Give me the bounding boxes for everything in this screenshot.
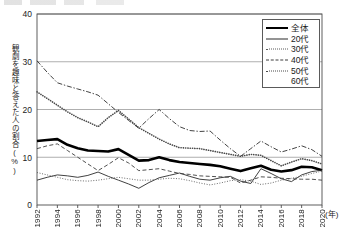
legend-item-overall[interactable]: 全体 bbox=[265, 23, 317, 34]
legend-swatch-50s bbox=[266, 66, 288, 76]
legend-item-30s[interactable]: 30代 bbox=[265, 44, 317, 55]
y-tick-0: 0 bbox=[14, 200, 32, 210]
chart-legend: 全体 20代 30代 40代 50代 60代 bbox=[262, 19, 320, 88]
x-tick-2008: 2008 bbox=[195, 209, 204, 228]
x-tick-2002: 2002 bbox=[134, 209, 143, 228]
legend-label-30s: 30代 bbox=[291, 44, 309, 54]
legend-swatch-60s bbox=[266, 76, 288, 86]
legend-label-40s: 40代 bbox=[291, 55, 309, 65]
x-tick-1998: 1998 bbox=[94, 209, 103, 228]
x-tick-2012: 2012 bbox=[236, 209, 245, 228]
x-tick-2014: 2014 bbox=[256, 209, 265, 228]
legend-swatch-20s bbox=[266, 34, 288, 44]
y-tick-30: 30 bbox=[14, 57, 32, 67]
x-tick-2000: 2000 bbox=[114, 209, 123, 228]
y-tick-10: 10 bbox=[14, 153, 32, 163]
legend-label-50s: 50代 bbox=[291, 66, 309, 76]
legend-label-overall: 全体 bbox=[291, 23, 309, 33]
legend-swatch-30s bbox=[266, 44, 288, 54]
x-tick-1992: 1992 bbox=[33, 209, 42, 228]
legend-label-60s: 60代 bbox=[291, 76, 309, 86]
x-tick-2010: 2010 bbox=[216, 209, 225, 228]
x-tick-1996: 1996 bbox=[73, 209, 82, 228]
x-tick-2004: 2004 bbox=[155, 209, 164, 228]
legend-item-50s[interactable]: 50代 bbox=[265, 65, 317, 76]
x-tick-2016: 2016 bbox=[277, 209, 286, 228]
x-tick-2018: 2018 bbox=[297, 209, 306, 228]
legend-item-40s[interactable]: 40代 bbox=[265, 55, 317, 66]
legend-label-20s: 20代 bbox=[291, 34, 309, 44]
series-line-50代 bbox=[37, 92, 322, 166]
legend-item-20s[interactable]: 20代 bbox=[265, 34, 317, 45]
legend-swatch-overall bbox=[266, 23, 288, 33]
y-tick-20: 20 bbox=[14, 105, 32, 115]
y-tick-40: 40 bbox=[14, 9, 32, 19]
series-line-全体 bbox=[37, 139, 322, 171]
x-tick-2020: 2020 bbox=[318, 209, 327, 228]
chart-container: 観劇を趣味と答えた人の割合(%) 40 30 20 10 0 (年) 全体 20… bbox=[0, 0, 343, 247]
scan-artifact-strip bbox=[4, 0, 154, 5]
legend-item-60s[interactable]: 60代 bbox=[265, 76, 317, 87]
legend-swatch-40s bbox=[266, 55, 288, 65]
x-tick-2006: 2006 bbox=[175, 209, 184, 228]
x-tick-1994: 1994 bbox=[53, 209, 62, 228]
